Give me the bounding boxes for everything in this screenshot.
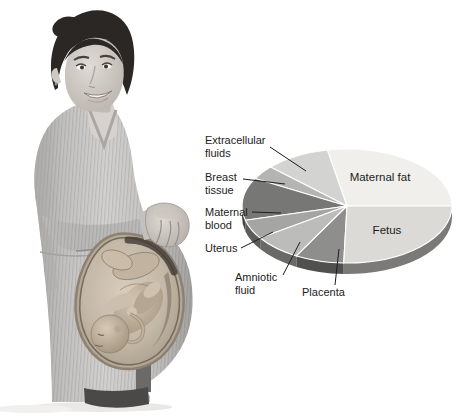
- slice-label-breast-tissue: Breasttissue: [205, 171, 237, 196]
- slice-label-extracellular-fluids: Extracellularfluids: [205, 134, 266, 159]
- slice-label-maternal-blood: Maternalblood: [205, 206, 248, 231]
- earring: [55, 83, 58, 86]
- fetus-head: [91, 315, 129, 353]
- pie-chart: Maternal fatExtracellularfluidsBreasttis…: [180, 105, 458, 310]
- slice-label-maternal-fat: Maternal fat: [350, 171, 412, 183]
- slice-label-fetus: Fetus: [373, 224, 402, 236]
- woman-head: [49, 10, 134, 111]
- uterus-illustration: [80, 238, 180, 365]
- slice-label-amniotic-fluid: Amnioticfluid: [235, 271, 278, 296]
- figure-canvas: Maternal fatExtracellularfluidsBreasttis…: [0, 0, 458, 416]
- slice-label-placenta: Placenta: [302, 286, 346, 298]
- slice-label-uterus: Uterus: [205, 242, 238, 254]
